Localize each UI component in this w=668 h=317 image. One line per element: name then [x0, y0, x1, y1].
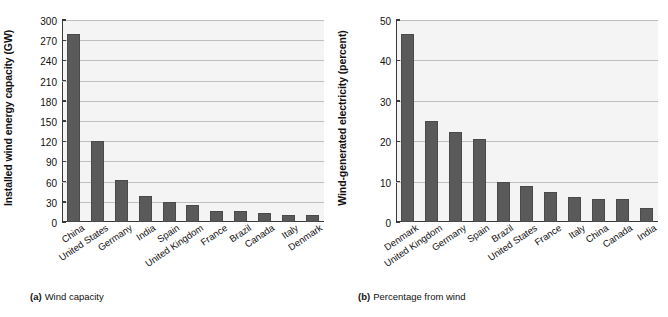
y-tick-label: 240: [40, 56, 62, 68]
bar: [401, 34, 414, 222]
panel-b-caption-marker: (b): [358, 291, 370, 302]
bar-cell: [276, 20, 300, 222]
y-tick-label: 90: [46, 157, 62, 169]
bar: [640, 208, 653, 222]
bar: [67, 34, 80, 222]
panel-a-caption-text: Wind capacity: [45, 291, 104, 302]
bar-cell: [229, 20, 253, 222]
y-tick-label: 210: [40, 77, 62, 89]
bar-cell: [205, 20, 229, 222]
y-tick-label: 40: [380, 56, 396, 68]
y-tick-label: 20: [380, 137, 396, 149]
bar: [449, 132, 462, 222]
y-tick: 270: [40, 34, 62, 46]
panel-a-bar-series: [62, 20, 324, 222]
y-tick-label: 120: [40, 137, 62, 149]
bar: [139, 196, 152, 222]
y-tick-label: 180: [40, 97, 62, 109]
bar: [473, 139, 486, 222]
bar-cell: [181, 20, 205, 222]
category-label: Italy: [566, 222, 587, 241]
panel-b-plot-area: 01020304050: [396, 20, 658, 222]
bar: [210, 211, 223, 222]
figure-wind-energy: Installed wind energy capacity (GW) 0306…: [0, 0, 668, 317]
category-label: France: [532, 222, 563, 248]
bar: [425, 121, 438, 222]
y-tick: 180: [40, 95, 62, 107]
panel-a-caption: (a)Wind capacity: [30, 291, 104, 302]
y-tick-label: 300: [40, 16, 62, 28]
y-tick: 20: [380, 135, 396, 147]
panel-b-caption: (b)Percentage from wind: [358, 291, 466, 302]
y-tick: 40: [380, 54, 396, 66]
y-tick-label: 50: [380, 16, 396, 28]
panel-a-category-labels: ChinaUnited StatesGermanyIndiaSpainUnite…: [62, 222, 324, 292]
bar: [91, 141, 104, 222]
y-tick: 90: [46, 155, 62, 167]
y-tick: 150: [40, 115, 62, 127]
y-tick: 300: [40, 14, 62, 26]
bar: [544, 192, 557, 222]
y-tick: 0: [51, 216, 62, 228]
y-tick-label: 30: [380, 97, 396, 109]
bar: [258, 213, 271, 222]
bar-cell: [444, 20, 468, 222]
bar-cell: [86, 20, 110, 222]
bar-cell: [62, 20, 86, 222]
bar-cell: [396, 20, 420, 222]
bar: [568, 197, 581, 222]
panel-b-percentage-from-wind: Wind-generated electricity (percent) 010…: [334, 0, 668, 317]
panel-a-caption-marker: (a): [30, 291, 42, 302]
bar-cell: [539, 20, 563, 222]
bar: [520, 186, 533, 222]
bar-cell: [563, 20, 587, 222]
category-label: India: [635, 222, 658, 243]
bar-cell: [491, 20, 515, 222]
y-tick: 210: [40, 75, 62, 87]
panel-b-category-labels: DenmarkUnited KingdomGermanySpainBrazilU…: [396, 222, 658, 292]
y-tick: 60: [46, 176, 62, 188]
y-tick: 240: [40, 54, 62, 66]
y-tick-label: 10: [380, 178, 396, 190]
category-label: Spain: [465, 222, 491, 245]
bar-cell: [300, 20, 324, 222]
y-tick: 30: [380, 95, 396, 107]
bar-cell: [133, 20, 157, 222]
bar: [163, 202, 176, 222]
bar-cell: [587, 20, 611, 222]
y-tick-label: 150: [40, 117, 62, 129]
bar-cell: [253, 20, 277, 222]
bar-cell: [110, 20, 134, 222]
bar-cell: [467, 20, 491, 222]
bar: [186, 205, 199, 222]
y-tick: 0: [385, 216, 396, 228]
panel-b-y-axis-title: Wind-generated electricity (percent): [334, 4, 350, 232]
y-tick-label: 270: [40, 36, 62, 48]
bar: [497, 182, 510, 222]
y-tick-label: 0: [51, 218, 62, 230]
y-tick-label: 60: [46, 178, 62, 190]
bar-cell: [420, 20, 444, 222]
y-tick: 120: [40, 135, 62, 147]
category-label: France: [198, 222, 229, 248]
bar: [616, 199, 629, 222]
bar: [115, 180, 128, 222]
bar: [306, 215, 319, 222]
bar-cell: [157, 20, 181, 222]
bar: [592, 199, 605, 222]
panel-a-y-axis-title: Installed wind energy capacity (GW): [0, 4, 16, 232]
y-tick-label: 30: [46, 198, 62, 210]
panel-b-bar-series: [396, 20, 658, 222]
y-tick: 50: [380, 14, 396, 26]
y-tick: 30: [46, 196, 62, 208]
bar-cell: [634, 20, 658, 222]
bar: [234, 211, 247, 222]
y-tick-label: 0: [385, 218, 396, 230]
panel-a-plot-area: 0306090120150180210240270300: [62, 20, 324, 222]
bar-cell: [610, 20, 634, 222]
bar: [282, 215, 295, 222]
panel-b-caption-text: Percentage from wind: [373, 291, 465, 302]
y-tick: 10: [380, 176, 396, 188]
panel-a-wind-capacity: Installed wind energy capacity (GW) 0306…: [0, 0, 334, 317]
bar-cell: [515, 20, 539, 222]
